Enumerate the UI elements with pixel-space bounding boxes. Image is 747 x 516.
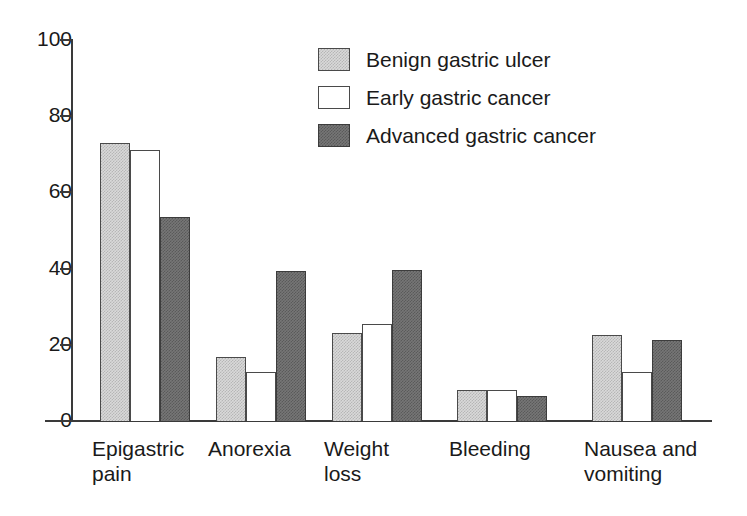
bar [276, 271, 306, 421]
bar [216, 357, 246, 421]
bar-chart: 100806040200 Epigastric painAnorexiaWeig… [0, 0, 747, 516]
bar [100, 143, 130, 421]
bar [517, 396, 547, 421]
y-tick-mark [60, 344, 72, 346]
legend-item: Early gastric cancer [318, 78, 648, 116]
legend-item: Benign gastric ulcer [318, 40, 648, 78]
x-axis-label: Epigastric pain [92, 436, 184, 486]
x-axis-label: Weight loss [324, 436, 389, 486]
legend-swatch-icon [318, 86, 350, 109]
bar [622, 372, 652, 421]
bar [392, 270, 422, 421]
legend: Benign gastric ulcerEarly gastric cancer… [318, 40, 648, 154]
legend-label: Benign gastric ulcer [366, 49, 550, 70]
y-tick-mark [60, 39, 72, 41]
y-tick-mark [60, 268, 72, 270]
bar [487, 390, 517, 421]
bar-group [216, 39, 306, 421]
legend-item: Advanced gastric cancer [318, 116, 648, 154]
y-tick-mark [60, 420, 72, 422]
bar [160, 217, 190, 421]
x-axis-label: Anorexia [208, 436, 291, 461]
y-tick-mark [60, 115, 72, 117]
x-axis-label: Bleeding [449, 436, 531, 461]
bar [246, 372, 276, 421]
bar [332, 333, 362, 421]
legend-swatch-icon [318, 124, 350, 147]
bar [652, 340, 682, 421]
legend-label: Early gastric cancer [366, 87, 550, 108]
x-axis-label: Nausea and vomiting [584, 436, 697, 486]
bar-group [100, 39, 190, 421]
y-tick-mark [60, 191, 72, 193]
legend-label: Advanced gastric cancer [366, 125, 596, 146]
legend-swatch-icon [318, 48, 350, 71]
bar [457, 390, 487, 421]
bar [362, 324, 392, 421]
bar [130, 150, 160, 421]
bar [592, 335, 622, 421]
